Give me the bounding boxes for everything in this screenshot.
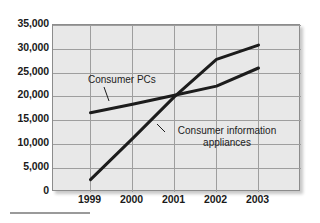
series-annotation-consumer-pcs: Consumer PCs [88, 74, 156, 86]
y-tick-label: 25,000 [1, 66, 49, 77]
x-tick-label: 1999 [68, 193, 112, 205]
annotation-line-2: appliances [203, 137, 251, 148]
y-tick-label: 30,000 [1, 42, 49, 53]
leader-line-consumer-pcs [104, 87, 109, 101]
plot-area: Consumer PCs Consumer information applia… [52, 24, 300, 191]
plot-svg [53, 25, 301, 192]
line-chart-figure: 35,000 30,000 25,000 20,000 15,000 10,00… [0, 0, 320, 223]
y-tick-label: 5,000 [1, 161, 49, 172]
annotation-line-1: Consumer information [178, 125, 276, 136]
y-tick-label: 0 [1, 185, 49, 196]
leader-line-consumer-appliances [157, 124, 165, 132]
x-tick-label: 2002 [194, 193, 238, 205]
y-tick-label: 10,000 [1, 137, 49, 148]
y-axis: 35,000 30,000 25,000 20,000 15,000 10,00… [0, 0, 49, 223]
x-tick-label: 2003 [236, 193, 280, 205]
x-tick-label: 2001 [152, 193, 196, 205]
y-tick-label: 15,000 [1, 113, 49, 124]
y-tick-label: 20,000 [1, 89, 49, 100]
x-tick-label: 2000 [110, 193, 154, 205]
series-annotation-consumer-information-appliances: Consumer information appliances [168, 125, 286, 148]
y-tick-label: 35,000 [1, 18, 49, 29]
caption-divider-rule [10, 212, 90, 214]
x-axis: 1999 2000 2001 2002 2003 [52, 193, 300, 209]
